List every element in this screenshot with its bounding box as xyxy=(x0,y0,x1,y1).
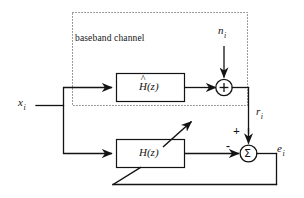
noise-signal-subscript: i xyxy=(224,31,226,40)
adaptive-filter-arg: (z) xyxy=(147,146,159,158)
error-summer-sigma-glyph: Σ xyxy=(244,148,251,159)
received-signal-subscript: i xyxy=(261,112,263,121)
input-signal-label: xi xyxy=(18,97,25,108)
error-signal-label: ei xyxy=(277,143,284,154)
error-summer-minus-sign: - xyxy=(226,140,230,152)
baseband-channel-label: baseband channel xyxy=(75,34,145,44)
channel-estimate-arg: (z) xyxy=(147,80,159,92)
block-diagram: baseband channel ^H(z) H(z) xi ni ri ei … xyxy=(0,0,304,198)
received-signal-name: r xyxy=(256,105,260,117)
error-signal-subscript: i xyxy=(282,149,284,158)
received-signal-label: ri xyxy=(256,106,263,117)
h-hat-group: ^H xyxy=(139,81,147,92)
noise-signal-label: ni xyxy=(218,25,226,36)
hat-accent-icon: ^ xyxy=(140,74,147,84)
adaptive-filter-label: H(z) xyxy=(139,147,159,158)
diagram-canvas xyxy=(0,0,304,198)
noise-signal-name: n xyxy=(218,24,224,36)
input-signal-subscript: i xyxy=(23,103,25,112)
adaptive-filter-base: H xyxy=(139,146,147,158)
channel-estimate-label: ^H(z) xyxy=(139,81,159,92)
error-summer-plus-sign: + xyxy=(233,125,240,137)
input-signal-path xyxy=(36,88,64,154)
